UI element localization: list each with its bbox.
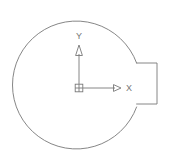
y-axis-label: Y: [76, 31, 82, 41]
part-outline: [13, 21, 157, 149]
x-axis-label: X: [126, 83, 132, 93]
circle-body-arc: [13, 21, 137, 149]
technical-drawing: X Y: [0, 0, 171, 165]
y-axis-arrowhead: [76, 45, 83, 56]
rectangular-tab: [137, 63, 157, 104]
ucs-coordinate-icon: X Y: [75, 31, 132, 93]
drawing-canvas: X Y: [0, 0, 171, 165]
origin-square-marker: [75, 84, 83, 92]
